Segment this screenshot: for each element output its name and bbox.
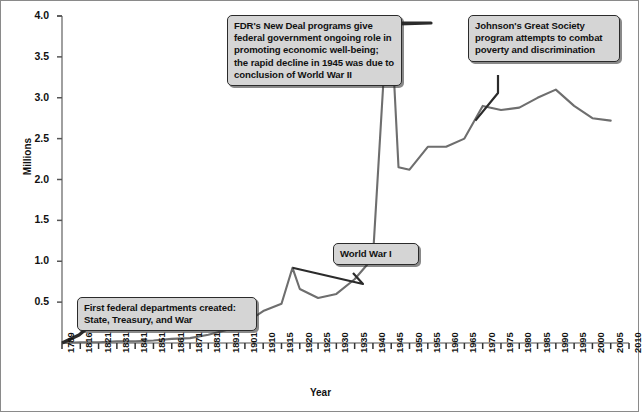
- y-tick-label: 0.5: [15, 295, 49, 307]
- x-tick-label: 1995: [578, 332, 588, 353]
- x-tick-label: 1990: [560, 332, 570, 353]
- x-tick-label: 2000: [596, 332, 606, 353]
- callout-first-departments: First federal departments created: State…: [77, 297, 257, 331]
- x-tick-label: 1950: [414, 332, 424, 353]
- x-tick-label: 1861: [176, 332, 186, 353]
- y-tick-label: 2.0: [15, 173, 49, 185]
- x-tick-label: 1881: [212, 332, 222, 353]
- x-tick-label: 1901: [249, 332, 259, 353]
- x-tick-label: 1841: [139, 332, 149, 353]
- y-tick-label: 1.0: [15, 254, 49, 266]
- x-tick-label: 1935: [359, 332, 369, 353]
- x-tick-label: 1851: [157, 332, 167, 353]
- x-tick-label: 1960: [450, 332, 460, 353]
- y-tick-label: 1.5: [15, 213, 49, 225]
- x-tick-label: 1930: [340, 332, 350, 353]
- y-tick-label: 3.0: [15, 91, 49, 103]
- x-tick-label: 1871: [194, 332, 204, 353]
- x-tick-label: 1789: [66, 332, 76, 353]
- callout-johnson-great-society: Johnson's Great Society program attempts…: [468, 15, 620, 62]
- y-tick-label: 2.5: [15, 132, 49, 144]
- x-tick-label: 1980: [523, 332, 533, 353]
- x-tick-label: 1910: [267, 332, 277, 353]
- x-tick-label: 1831: [121, 332, 131, 353]
- x-tick-label: 1915: [285, 332, 295, 353]
- x-tick-label: 1975: [505, 332, 515, 353]
- x-tick-label: 1920: [304, 332, 314, 353]
- x-tick-label: 1816: [84, 332, 94, 353]
- x-tick-label: 1821: [103, 332, 113, 353]
- x-tick-label: 1965: [468, 332, 478, 353]
- x-tick-label: 1925: [322, 332, 332, 353]
- y-tick-label: 4.0: [15, 9, 49, 21]
- x-tick-label: 2005: [615, 332, 625, 353]
- x-tick-label: 1970: [487, 332, 497, 353]
- callout-world-war-i: World War I: [333, 243, 419, 265]
- x-tick-label: 1891: [231, 332, 241, 353]
- x-axis-title: Year: [1, 387, 640, 398]
- x-tick-label: 1955: [432, 332, 442, 353]
- x-tick-label: 1940: [377, 332, 387, 353]
- x-tick-label: 2010: [633, 332, 643, 353]
- x-tick-label: 1945: [395, 332, 405, 353]
- callout-fdr-new-deal: FDR's New Deal programs give federal gov…: [227, 15, 402, 86]
- y-tick-label: 3.5: [15, 50, 49, 62]
- x-tick-label: 1985: [542, 332, 552, 353]
